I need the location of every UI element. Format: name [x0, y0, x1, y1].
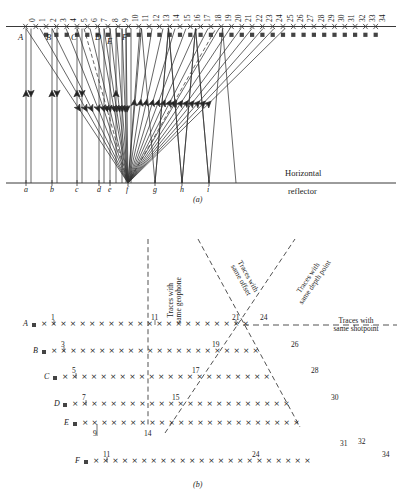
trace-mark: ×: [120, 400, 126, 408]
trace-mark: ×: [62, 373, 68, 381]
trace-mark: ×: [111, 419, 117, 427]
trace-row-letter-F: F: [75, 457, 80, 465]
station-number-2: 2: [50, 18, 58, 22]
trace-mark: ×: [149, 400, 155, 408]
trace-mark: ×: [139, 400, 145, 408]
station-number-27: 27: [307, 15, 315, 23]
trace-mark: ×: [185, 347, 191, 355]
trace-mark: ×: [72, 400, 78, 408]
shotpoint-letter-E: E: [107, 37, 112, 46]
trace-mark: ×: [41, 320, 47, 328]
station-number-0: 0: [29, 18, 37, 22]
trace-mark: ×: [147, 347, 153, 355]
trace-mark: ×: [255, 419, 261, 427]
trace-mark: ×: [170, 457, 176, 465]
trace-mark: ×: [226, 419, 232, 427]
trace-number-32: 32: [358, 438, 366, 446]
annotation-same-geophone: Traces with same geophone: [167, 256, 184, 344]
trace-mark: ×: [127, 320, 133, 328]
trace-number-28: 28: [311, 367, 319, 375]
trace-mark: ×: [283, 400, 289, 408]
trace-mark: ×: [208, 457, 214, 465]
trace-mark: ×: [130, 400, 136, 408]
trace-mark: ×: [151, 457, 157, 465]
trace-mark: ×: [118, 320, 124, 328]
station-number-30: 30: [338, 15, 346, 23]
trace-mark: ×: [176, 347, 182, 355]
trace-mark: ×: [110, 400, 116, 408]
station-number-31: 31: [348, 15, 356, 23]
trace-mark: ×: [204, 320, 210, 328]
trace-mark: ×: [160, 457, 166, 465]
trace-mark: ×: [195, 347, 201, 355]
trace-mark: ×: [195, 320, 201, 328]
panel-b-caption: (b): [193, 481, 202, 489]
trace-mark: ×: [226, 400, 232, 408]
station-number-4: 4: [70, 18, 78, 22]
trace-row-shot-marker: [84, 460, 89, 465]
trace-number-24: 24: [260, 314, 268, 322]
trace-mark: ×: [148, 373, 154, 381]
trace-mark: ×: [82, 419, 88, 427]
reflection-point-letter-d: d: [97, 186, 101, 194]
station-number-20: 20: [235, 15, 243, 23]
trace-number-5: 5: [72, 367, 76, 375]
trace-number-11: 11: [151, 314, 158, 322]
trace-mark: ×: [91, 373, 97, 381]
trace-mark: ×: [99, 320, 105, 328]
station-number-3: 3: [60, 18, 68, 22]
station-number-14: 14: [173, 15, 181, 23]
station-number-17: 17: [204, 15, 212, 23]
trace-mark: ×: [110, 373, 116, 381]
trace-row-shot-marker: [32, 323, 37, 328]
station-number-11: 11: [142, 15, 150, 22]
trace-mark: ×: [243, 347, 249, 355]
trace-mark: ×: [177, 373, 183, 381]
trace-mark: ×: [80, 347, 86, 355]
trace-mark: ×: [275, 457, 281, 465]
trace-mark: ×: [207, 419, 213, 427]
trace-mark: ×: [264, 373, 270, 381]
station-number-19: 19: [225, 15, 233, 23]
station-number-6: 6: [91, 18, 99, 22]
trace-mark: ×: [112, 457, 118, 465]
annotation-same-geophone-line2: same geophone: [174, 277, 183, 323]
station-number-15: 15: [184, 15, 192, 23]
trace-mark: ×: [189, 457, 195, 465]
trace-mark: ×: [254, 400, 260, 408]
trace-mark: ×: [118, 347, 124, 355]
reflection-point-letter-b: b: [50, 186, 54, 194]
trace-number-24: 24: [252, 451, 260, 459]
reflector-label-line1: Horizontal: [285, 169, 321, 178]
trace-mark: ×: [187, 400, 193, 408]
trace-mark: ×: [149, 419, 155, 427]
trace-row-letter-C: C: [44, 373, 49, 381]
trace-number-1: 1: [51, 314, 55, 322]
trace-number-21: 21: [232, 314, 240, 322]
trace-mark: ×: [79, 320, 85, 328]
trace-mark: ×: [235, 400, 241, 408]
trace-mark: ×: [128, 347, 134, 355]
station-number-23: 23: [266, 15, 274, 23]
trace-mark: ×: [225, 373, 231, 381]
panel-a-raypath-diagram: [0, 0, 401, 215]
reflection-point-letter-c: c: [75, 186, 79, 194]
trace-row-letter-E: E: [64, 419, 69, 427]
trace-mark: ×: [188, 419, 194, 427]
trace-mark: ×: [216, 373, 222, 381]
trace-mark: ×: [101, 400, 107, 408]
trace-row-shot-marker: [63, 403, 68, 408]
trace-mark: ×: [60, 320, 66, 328]
trace-mark: ×: [178, 419, 184, 427]
trace-mark: ×: [223, 320, 229, 328]
trace-mark: ×: [158, 400, 164, 408]
trace-mark: ×: [253, 347, 259, 355]
trace-mark: ×: [101, 419, 107, 427]
trace-mark: ×: [274, 400, 280, 408]
station-number-7: 7: [101, 18, 109, 22]
trace-mark: ×: [197, 400, 203, 408]
trace-mark: ×: [109, 347, 115, 355]
panel-a-caption: (a): [193, 196, 202, 204]
trace-mark: ×: [236, 419, 242, 427]
station-number-5: 5: [81, 18, 89, 22]
